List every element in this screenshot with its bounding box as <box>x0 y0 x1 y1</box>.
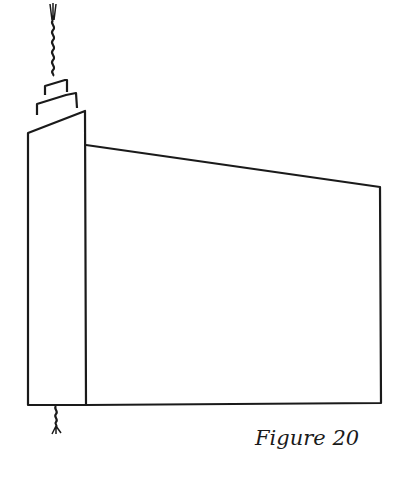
top-cap <box>45 80 67 95</box>
figure-caption: Figure 20 <box>255 426 359 450</box>
flat-panel <box>86 145 381 405</box>
top-cord-icon <box>50 3 56 76</box>
figure-drawing <box>0 0 413 478</box>
main-column <box>28 111 86 405</box>
middle-step <box>37 93 77 115</box>
bottom-cord-icon <box>52 406 61 434</box>
